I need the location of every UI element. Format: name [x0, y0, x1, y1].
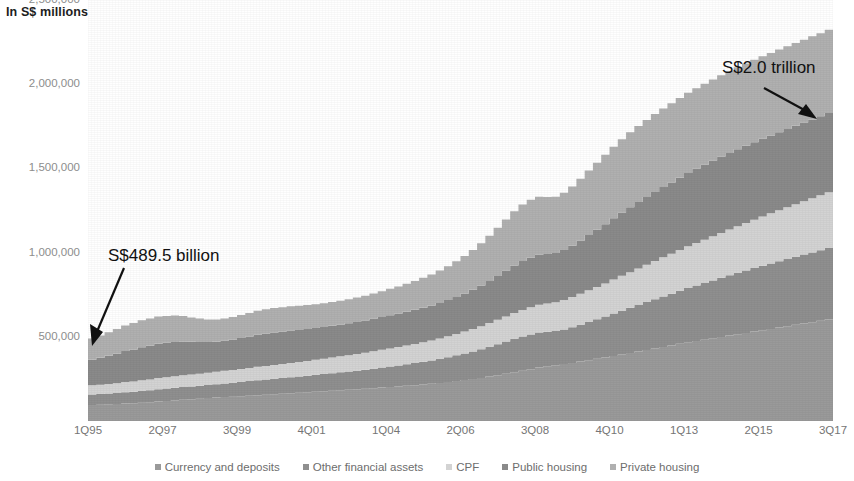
legend-item[interactable]: Private housing — [610, 461, 699, 473]
annotation-start-arrow — [84, 262, 130, 352]
legend-swatch-icon — [155, 464, 161, 470]
x-axis: 1Q952Q973Q994Q011Q042Q063Q084Q101Q132Q15… — [88, 424, 833, 446]
legend-item[interactable]: CPF — [446, 461, 479, 473]
y-tick-label: 500,000 — [6, 330, 80, 342]
legend-swatch-icon — [303, 464, 309, 470]
y-tick-label: 2,000,000 — [6, 77, 80, 89]
y-tick-label: 2,500,000 — [6, 0, 80, 5]
annotation-end-arrow — [760, 84, 822, 124]
legend-swatch-icon — [610, 464, 616, 470]
legend-item[interactable]: Public housing — [502, 461, 587, 473]
y-tick-label: 1,500,000 — [6, 161, 80, 173]
x-tick-label: 2Q97 — [148, 424, 176, 436]
x-tick-label: 1Q04 — [372, 424, 400, 436]
chart-legend: Currency and depositsOther financial ass… — [0, 455, 854, 479]
legend-item[interactable]: Other financial assets — [303, 461, 424, 473]
stacked-area-chart: In S$ millions 2,500,0002,000,0001,500,0… — [0, 0, 854, 481]
legend-label: CPF — [456, 461, 479, 473]
legend-label: Public housing — [512, 461, 587, 473]
x-tick-label: 3Q17 — [819, 424, 847, 436]
legend-label: Private housing — [620, 461, 699, 473]
annotation-end-label: S$2.0 trillion — [722, 58, 816, 78]
y-tick-label: 1,000,000 — [6, 246, 80, 258]
x-tick-label: 1Q13 — [670, 424, 698, 436]
x-tick-label: 1Q95 — [74, 424, 102, 436]
x-tick-label: 3Q08 — [521, 424, 549, 436]
x-tick-label: 4Q10 — [595, 424, 623, 436]
x-tick-label: 2Q15 — [744, 424, 772, 436]
x-tick-label: 4Q01 — [297, 424, 325, 436]
legend-label: Other financial assets — [313, 461, 424, 473]
legend-label: Currency and deposits — [165, 461, 280, 473]
y-axis: 2,500,0002,000,0001,500,0001,000,000500,… — [0, 0, 80, 481]
legend-item[interactable]: Currency and deposits — [155, 461, 280, 473]
x-tick-label: 3Q99 — [223, 424, 251, 436]
x-tick-label: 2Q06 — [446, 424, 474, 436]
legend-swatch-icon — [502, 464, 508, 470]
legend-swatch-icon — [446, 464, 452, 470]
